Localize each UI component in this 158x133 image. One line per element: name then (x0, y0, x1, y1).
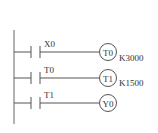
timer-constant: K3000 (119, 53, 144, 63)
rung-2: T0 T1 K1500 (14, 65, 144, 88)
coil-label: Y0 (103, 99, 114, 109)
ladder-diagram: X0 T0 K3000 T0 T1 K1500 T1 Y0 (0, 0, 158, 133)
rung-1: X0 T0 K3000 (14, 39, 144, 63)
timer-constant: K1500 (119, 78, 144, 88)
coil-label: T1 (103, 74, 113, 84)
contact-label: T0 (44, 65, 54, 75)
rung-3: T1 Y0 (14, 90, 117, 112)
contact-label: T1 (44, 90, 54, 100)
contact-label: X0 (44, 39, 55, 49)
coil-label: T0 (103, 48, 113, 58)
